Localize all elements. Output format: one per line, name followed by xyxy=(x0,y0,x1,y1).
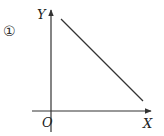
origin-label: O xyxy=(42,115,53,130)
figure-number: ① xyxy=(3,23,16,39)
x-axis-label: X xyxy=(142,116,153,131)
y-axis-label: Y xyxy=(37,7,47,22)
figure-label: ① xyxy=(3,23,16,39)
coordinate-diagram: ① Y O X xyxy=(0,0,164,136)
data-line xyxy=(61,19,143,101)
